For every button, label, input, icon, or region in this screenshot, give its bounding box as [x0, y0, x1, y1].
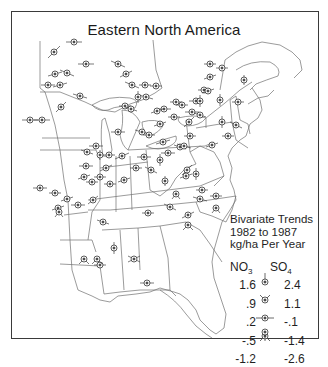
- legend-no3-value: -1.2: [230, 352, 256, 366]
- legend-row: -1.2 -2.6: [230, 350, 320, 367]
- legend-so4-value: -2.6: [282, 352, 312, 366]
- needle-down-icon: [256, 350, 282, 367]
